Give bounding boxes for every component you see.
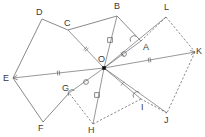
tick-mark-ray-O-K (148, 58, 149, 63)
edge-B-A (117, 16, 141, 41)
edges-layer (13, 16, 195, 124)
vertex-label-L: L (164, 3, 169, 12)
ray-O-G (69, 68, 104, 93)
diagram-canvas: ABCDEFGHIJKLO (0, 0, 205, 137)
vertex-label-O: O (98, 55, 105, 64)
tick-mark-ray-O-E (59, 71, 60, 76)
vertex-label-D: D (36, 8, 43, 17)
ray-O-L (104, 17, 166, 68)
vertex-label-E: E (3, 74, 9, 83)
points-layer (102, 66, 106, 70)
vertex-label-A: A (143, 43, 149, 52)
edge-F-G (43, 93, 69, 122)
vertex-label-G: G (62, 84, 69, 93)
edge-I-H (93, 99, 141, 124)
edge-D-E (13, 19, 42, 78)
vertex-label-K: K (196, 47, 202, 56)
edge-A-L (141, 17, 166, 41)
vertex-label-F: F (38, 124, 44, 133)
geometry-figure (0, 0, 205, 137)
edge-E-F (13, 78, 43, 122)
ray-O-K (104, 52, 195, 68)
tick-mark-ray-O-K (150, 57, 151, 62)
vertex-label-H: H (88, 126, 95, 135)
vertex-label-J: J (164, 116, 169, 125)
angle-arc-A (130, 36, 136, 42)
vertex-label-B: B (114, 2, 120, 11)
center-point-O (102, 66, 106, 70)
edge-J-I (141, 99, 167, 113)
vertex-label-I: I (141, 103, 144, 112)
vertex-label-C: C (64, 19, 71, 28)
rays-layer (13, 16, 195, 124)
edge-B-C (68, 16, 117, 30)
edge-H-G (69, 93, 93, 124)
edge-K-J (167, 52, 195, 113)
tick-mark-ray-O-E (57, 71, 58, 76)
ray-O-E (13, 68, 104, 78)
edge-L-K (166, 17, 195, 52)
ray-O-J (104, 68, 167, 113)
